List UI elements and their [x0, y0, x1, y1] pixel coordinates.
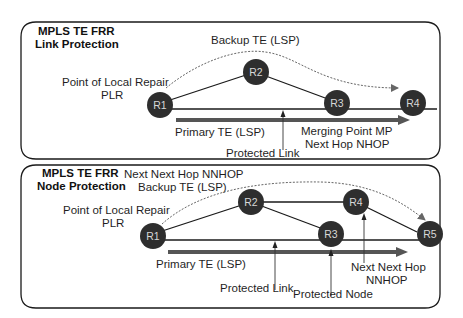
panel-title-line1: MPLS TE FRR	[38, 25, 115, 37]
plr-label-line2: PLR	[101, 89, 123, 101]
node-r4: R4	[400, 90, 426, 116]
backup-lsp-label: Backup TE (LSP)	[211, 34, 300, 46]
svg-text:R2: R2	[244, 196, 258, 208]
node-r1: R1	[147, 92, 173, 118]
node-r2: R2	[243, 59, 269, 85]
svg-text:R4: R4	[349, 196, 363, 208]
panel-link-protection: MPLS TE FRR Link Protection Backup TE (L…	[20, 21, 441, 160]
backup-lsp-label: Backup TE (LSP)	[138, 181, 227, 193]
primary-lsp-arrowhead	[398, 115, 410, 125]
plr-label-line2: PLR	[102, 217, 124, 229]
plr-label-line1: Point of Local Repair	[62, 76, 169, 88]
plr-label-line1: Point of Local Repair	[63, 204, 170, 216]
panel-node-protection: MPLS TE FRR Node Protection Next Next Ho…	[21, 165, 443, 308]
link-r1-r2	[161, 72, 255, 103]
node-r3: R3	[318, 221, 344, 247]
svg-text:R3: R3	[330, 97, 344, 109]
svg-text:R1: R1	[146, 230, 160, 242]
node-r3: R3	[324, 90, 350, 116]
nnhop-label-line2: NNHOP	[366, 274, 408, 286]
svg-text:R4: R4	[406, 97, 420, 109]
merging-point-label-line2: Next Hop NHOP	[305, 138, 390, 150]
protected-link-arrowhead	[273, 241, 278, 248]
node-r2: R2	[238, 189, 264, 215]
svg-text:R3: R3	[324, 228, 338, 240]
mpls-te-frr-diagram: MPLS TE FRR Link Protection Backup TE (L…	[0, 0, 463, 318]
svg-text:R2: R2	[249, 66, 263, 78]
primary-lsp-label: Primary TE (LSP)	[156, 258, 246, 270]
protected-link-label: Protected Link	[226, 147, 300, 159]
nnhop-top-label: Next Next Hop NNHOP	[124, 168, 244, 180]
primary-lsp-arrowhead	[396, 247, 408, 257]
panel-title-line2: Node Protection	[37, 180, 126, 192]
primary-lsp-label: Primary TE (LSP)	[175, 126, 265, 138]
protected-link-arrowhead	[281, 110, 286, 117]
svg-text:R1: R1	[153, 99, 167, 111]
nnhop-label-line1: Next Next Hop	[351, 261, 426, 273]
nnhop-arrowhead	[362, 213, 367, 220]
node-r1: R1	[140, 223, 166, 249]
panel-title-line2: Link Protection	[35, 38, 119, 50]
protected-link-label: Protected Link	[220, 282, 294, 294]
merging-point-label-line1: Merging Point MP	[301, 125, 393, 137]
svg-text:R5: R5	[423, 228, 437, 240]
node-r4: R4	[343, 189, 369, 215]
protected-node-label: Protected Node	[293, 288, 373, 300]
panel-title-line1: MPLS TE FRR	[42, 167, 119, 179]
node-r5: R5	[417, 221, 443, 247]
